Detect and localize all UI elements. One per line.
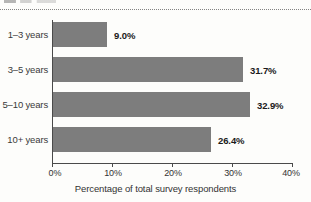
- category-label-2: 3–5 years: [8, 64, 48, 75]
- category-label-3: 5–10 years: [2, 99, 48, 110]
- x-axis-title: Percentage of total survey respondents: [0, 183, 311, 194]
- bar-1[interactable]: [53, 22, 107, 47]
- x-tick-mark-10: [112, 163, 113, 167]
- bar-value-2: 31.7%: [250, 65, 276, 76]
- x-tick-label-10: 10%: [104, 168, 122, 178]
- bar-chart: 1–3 years 3–5 years 5–10 years 10+ years…: [0, 0, 311, 202]
- x-tick-label-0: 0%: [49, 168, 62, 178]
- x-tick-label-40: 40%: [282, 168, 300, 178]
- x-tick-label-30: 30%: [224, 168, 242, 178]
- x-tick-mark-0: [52, 163, 53, 167]
- x-tick-mark-40: [292, 163, 293, 167]
- bar-value-3: 32.9%: [257, 100, 283, 111]
- x-tick-mark-30: [232, 163, 233, 167]
- bar-3[interactable]: [53, 92, 250, 117]
- bar-value-1: 9.0%: [114, 30, 135, 41]
- category-label-4: 10+ years: [7, 134, 48, 145]
- x-tick-label-20: 20%: [164, 168, 182, 178]
- bar-4[interactable]: [53, 127, 211, 152]
- bar-value-4: 26.4%: [218, 135, 244, 146]
- category-label-1: 1–3 years: [8, 29, 48, 40]
- bar-2[interactable]: [53, 57, 243, 82]
- x-tick-mark-20: [172, 163, 173, 167]
